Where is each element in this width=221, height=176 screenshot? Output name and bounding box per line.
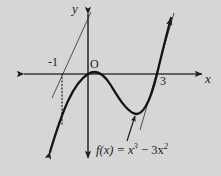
- tick-label-minus-one: -1: [48, 56, 58, 68]
- tick-label-three: 3: [160, 75, 166, 87]
- leader-arrow-to-minimum: [127, 116, 135, 141]
- y-axis-label: y: [72, 2, 78, 15]
- function-equation-label: f(x) = x3 − 3x2: [96, 142, 168, 157]
- function-equation-prefix: f(x) = x: [96, 143, 134, 157]
- x-axis-label: x: [205, 72, 211, 85]
- origin-label: O: [90, 58, 99, 70]
- figure-canvas: y x O -1 3 f(x) = x3 − 3x2: [0, 0, 221, 176]
- function-equation-exponent-two: 2: [164, 141, 168, 151]
- function-equation-operator: − 3x: [138, 143, 164, 157]
